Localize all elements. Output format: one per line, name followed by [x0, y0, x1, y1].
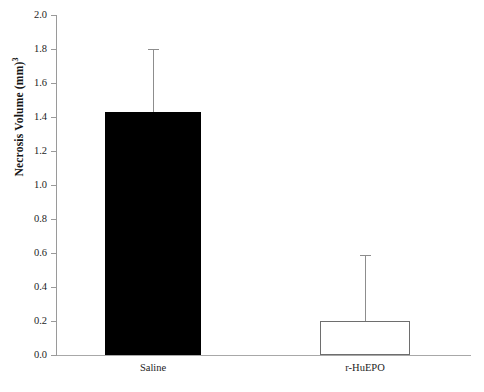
y-axis-tick: [51, 355, 57, 356]
y-axis-tick-label: 1.6: [0, 78, 47, 88]
y-axis-tick: [51, 321, 57, 322]
y-axis-tick-label: 0.6: [0, 248, 47, 258]
y-axis-tick: [51, 219, 57, 220]
y-axis-tick-label: 1.2: [0, 146, 47, 156]
error-bar-stem: [365, 255, 366, 321]
y-axis-tick: [51, 117, 57, 118]
y-axis-tick-label: 2.0: [0, 10, 47, 20]
bar-r-huepo: [320, 321, 410, 355]
y-axis-tick: [51, 185, 57, 186]
bar-saline: [105, 112, 201, 355]
error-bar-cap: [360, 255, 371, 256]
error-bar-stem: [153, 49, 154, 112]
necrosis-volume-bar-chart: Necrosis Volume (mm)3 0.00.20.40.60.81.0…: [0, 0, 484, 392]
y-axis-tick: [51, 253, 57, 254]
y-axis-tick: [51, 49, 57, 50]
x-axis-line: [56, 355, 471, 356]
y-axis-tick: [51, 287, 57, 288]
y-axis-title-exponent: 3: [11, 57, 20, 61]
y-axis-tick-label: 1.4: [0, 112, 47, 122]
y-axis-tick: [51, 151, 57, 152]
y-axis-tick: [51, 83, 57, 84]
error-bar-cap: [148, 49, 159, 50]
y-axis-tick-label: 0.8: [0, 214, 47, 224]
x-axis-label-saline: Saline: [75, 362, 231, 373]
y-axis-tick-label: 0.0: [0, 350, 47, 360]
y-axis-tick-label: 1.8: [0, 44, 47, 54]
y-axis-tick-label: 1.0: [0, 180, 47, 190]
y-axis-tick: [51, 15, 57, 16]
y-axis-tick-label: 0.2: [0, 316, 47, 326]
y-axis-tick-label: 0.4: [0, 282, 47, 292]
x-axis-label-r-huepo: r-HuEPO: [290, 362, 440, 373]
